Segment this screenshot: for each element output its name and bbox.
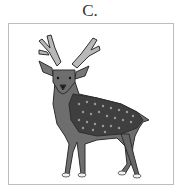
option-image-frame[interactable] [8,23,174,185]
deer-illustration-icon [9,24,175,186]
option-label: C. [0,1,180,21]
